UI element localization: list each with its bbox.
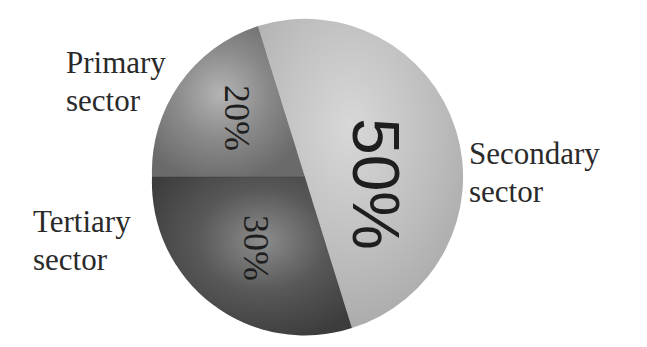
category-label-primary: Primary sector	[66, 44, 166, 120]
data-label-secondary: 50%	[339, 118, 413, 250]
category-label-secondary: Secondary sector	[469, 135, 600, 211]
category-label-secondary-line1: Secondary	[469, 135, 600, 173]
data-label-primary: 20%	[217, 85, 257, 151]
category-label-tertiary-line2: sector	[33, 241, 131, 279]
category-label-primary-line1: Primary	[66, 44, 166, 82]
category-label-tertiary: Tertiary sector	[33, 203, 131, 279]
category-label-primary-line2: sector	[66, 82, 166, 120]
data-label-tertiary: 30%	[236, 215, 276, 281]
category-label-tertiary-line1: Tertiary	[33, 203, 131, 241]
category-label-secondary-line2: sector	[469, 173, 600, 211]
